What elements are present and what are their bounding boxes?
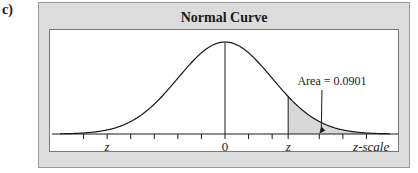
- plot-area: z0zz-scaleArea = 0.0901: [49, 29, 399, 152]
- chart-frame: Normal Curve z0zz-scaleArea = 0.0901: [38, 2, 410, 168]
- tick-label: 0: [222, 139, 229, 153]
- tick-label: z: [285, 139, 291, 153]
- chart-title: Normal Curve: [39, 10, 409, 26]
- normal-curve-plot: z0zz-scaleArea = 0.0901: [50, 30, 400, 153]
- tick-label: z-scale: [352, 139, 389, 153]
- tick-label: z: [104, 139, 110, 153]
- area-annotation: Area = 0.0901: [297, 74, 366, 88]
- part-label: c): [2, 2, 13, 18]
- annotation-arrow: [321, 90, 322, 131]
- shaded-area: [288, 97, 390, 134]
